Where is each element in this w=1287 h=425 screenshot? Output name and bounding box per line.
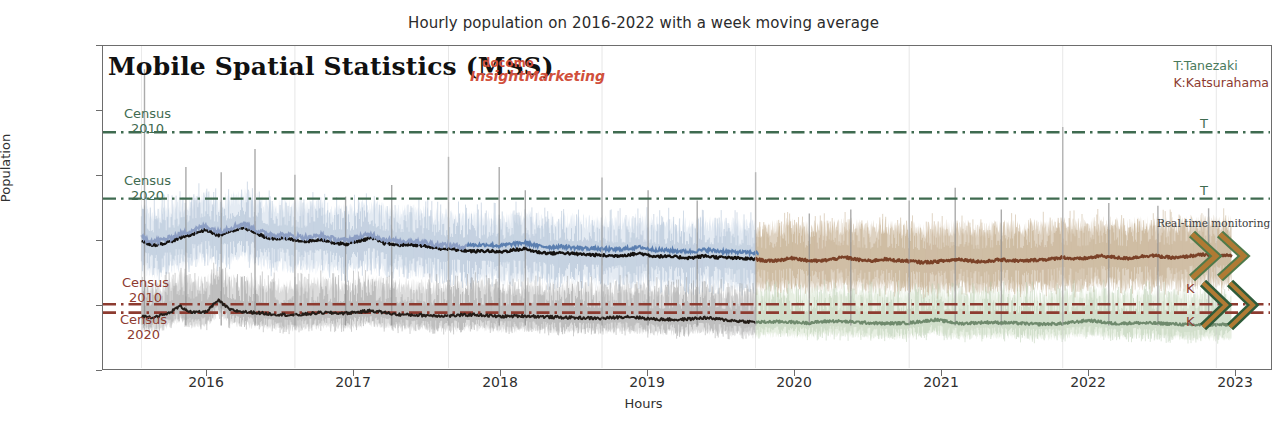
plot-area [102, 45, 1272, 370]
x-tick-2018: 2018 [465, 374, 535, 390]
end-label-tanezaki-2020: T [1200, 183, 1208, 198]
end-label-tanezaki-2010: T [1200, 116, 1208, 131]
census-label-tanezaki-2020: Census 2020 [124, 174, 171, 203]
realtime-monitoring-label: Real-time monitoring [1157, 217, 1270, 229]
census-label-katsurahama-2010: Census 2010 [122, 276, 169, 305]
figure-root: Hourly population on 2016-2022 with a we… [0, 0, 1287, 425]
figure-title: Hourly population on 2016-2022 with a we… [0, 14, 1287, 32]
x-tick-2020: 2020 [759, 374, 829, 390]
y-axis-label: Population [0, 134, 13, 202]
x-tick-2019: 2019 [612, 374, 682, 390]
y-tick-mark [96, 370, 102, 371]
legend-item-tanezaki: T:Tanezaki [1173, 58, 1269, 75]
census-label-katsurahama-2020: Census 2020 [120, 313, 167, 342]
census-label-tanezaki-2010: Census 2010 [124, 107, 171, 136]
x-tick-2021: 2021 [906, 374, 976, 390]
insight-marketing-wordmark: InsightMarketing [470, 69, 605, 84]
plot-canvas [103, 46, 1270, 368]
legend-item-katsurahama: K:Katsurahama [1173, 75, 1269, 92]
x-axis-label: Hours [0, 396, 1287, 411]
x-tick-2017: 2017 [318, 374, 388, 390]
chevron-arrow-lower [1198, 278, 1270, 336]
docomo-logo: docomo InsightMarketing [470, 57, 605, 85]
x-tick-2022: 2022 [1053, 374, 1123, 390]
x-tick-2023: 2023 [1200, 374, 1270, 390]
legend: T:Tanezaki K:Katsurahama [1173, 58, 1269, 92]
end-label-katsurahama-2020: K [1186, 314, 1195, 329]
x-tick-2016: 2016 [171, 374, 241, 390]
